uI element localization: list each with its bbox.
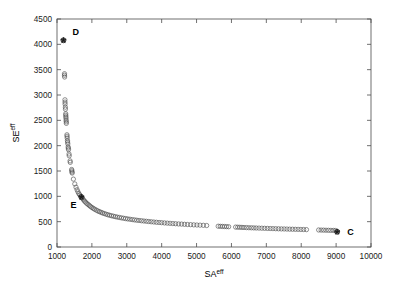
y-axis-tick-labels: 050010001500200025003000350040004500 (34, 15, 53, 252)
data-point-series (61, 38, 339, 234)
data-point (205, 223, 209, 227)
x-tick-label-7000: 7000 (257, 252, 276, 261)
y-tick-label-3500: 3500 (34, 66, 53, 75)
x-axis-title: SAeff (204, 268, 223, 279)
scatter-plot: 1000200030004000500060007000800090001000… (0, 0, 397, 293)
x-tick-label-5000: 5000 (187, 252, 206, 261)
chart-figure: 1000200030004000500060007000800090001000… (0, 0, 397, 293)
y-tick-label-2000: 2000 (34, 142, 53, 151)
x-tick-label-10000: 10000 (360, 252, 383, 261)
x-tick-label-3000: 3000 (118, 252, 137, 261)
x-tick-label-4000: 4000 (153, 252, 172, 261)
y-tick-label-0: 0 (47, 243, 52, 252)
annotation-label-D: D (72, 27, 79, 37)
x-tick-label-6000: 6000 (222, 252, 241, 261)
y-tick-label-500: 500 (38, 218, 52, 227)
x-tick-label-1000: 1000 (48, 252, 67, 261)
y-tick-label-1000: 1000 (34, 192, 53, 201)
y-axis-title-base: SE (11, 130, 21, 142)
x-axis-title-superscript: eff (217, 268, 224, 275)
x-axis-title-base: SA (204, 269, 216, 279)
y-tick-label-4000: 4000 (34, 40, 53, 49)
x-tick-label-9000: 9000 (327, 252, 346, 261)
x-tick-label-2000: 2000 (83, 252, 102, 261)
y-axis-title-superscript: eff (9, 123, 16, 130)
annotation-label-C: C (347, 227, 354, 237)
y-axis-title: SEeff (9, 123, 20, 142)
y-tick-label-1500: 1500 (34, 167, 53, 176)
annotation-label-E: E (70, 200, 76, 210)
series-0 (61, 38, 339, 234)
y-tick-label-3000: 3000 (34, 91, 53, 100)
y-tick-label-4500: 4500 (34, 15, 53, 24)
data-point (304, 227, 308, 231)
annotation-markers (61, 37, 340, 234)
x-tick-label-8000: 8000 (292, 252, 311, 261)
annotation-labels: DEC (70, 27, 354, 237)
data-point (71, 177, 75, 181)
annotation-marker-D (61, 37, 67, 43)
x-axis-tick-labels: 1000200030004000500060007000800090001000… (48, 252, 383, 261)
y-tick-label-2500: 2500 (34, 116, 53, 125)
